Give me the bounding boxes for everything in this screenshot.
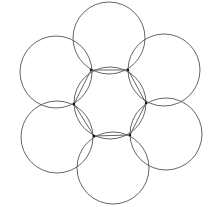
hexagon bbox=[74, 70, 146, 136]
hexagon-vertices bbox=[73, 69, 147, 137]
outer-circle-bottom bbox=[77, 132, 149, 204]
vertex-point-2 bbox=[145, 102, 147, 104]
vertex-point-0 bbox=[90, 69, 92, 71]
center-circle bbox=[74, 67, 146, 139]
outer-circle-upper-right bbox=[128, 34, 200, 106]
hexagon-circles-diagram bbox=[0, 0, 216, 207]
vertex-point-5 bbox=[73, 103, 75, 105]
outer-circles bbox=[20, 2, 202, 204]
outer-circle-lower-left bbox=[21, 101, 93, 173]
vertex-point-1 bbox=[127, 69, 129, 71]
outer-circle-lower-right bbox=[130, 98, 202, 170]
outer-circle-upper-left bbox=[20, 36, 92, 108]
vertex-point-3 bbox=[129, 134, 131, 136]
center-circle-group bbox=[74, 67, 146, 139]
outer-circle-top bbox=[73, 2, 145, 74]
vertex-point-4 bbox=[93, 135, 95, 137]
hexagon-outline bbox=[74, 70, 146, 136]
